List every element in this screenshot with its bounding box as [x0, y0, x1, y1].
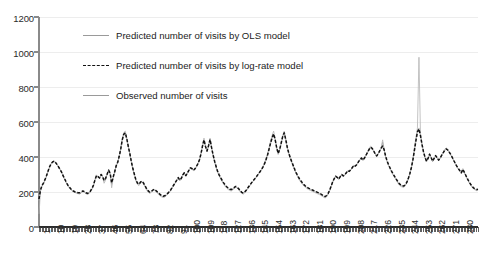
y-tick-label-600: 600 — [0, 118, 34, 129]
x-tick-label-226: 226 — [383, 220, 393, 234]
legend-label-observed: Observed number of visits — [116, 91, 227, 101]
x-tick-label-109: 109 — [206, 220, 216, 234]
x-tick-label-280: 280 — [465, 220, 475, 234]
y-tick-label-1000: 1000 — [0, 48, 34, 59]
y-axis-ticks — [34, 17, 39, 227]
x-tick-label-127: 127 — [233, 220, 243, 234]
x-tick-label-145: 145 — [260, 220, 270, 234]
legend-label-lograte: Predicted number of visits by log-rate m… — [116, 61, 303, 71]
legend-item-lograte: Predicted number of visits by log-rate m… — [83, 61, 303, 71]
x-tick-label-262: 262 — [437, 220, 447, 234]
x-tick-label-46: 46 — [110, 225, 120, 234]
legend-item-observed: Observed number of visits — [83, 91, 227, 101]
data-series-layer — [39, 57, 478, 214]
x-tick-label-82: 82 — [165, 225, 175, 234]
y-tick-label-400: 400 — [0, 153, 34, 164]
x-tick-label-91: 91 — [179, 225, 189, 234]
x-tick-label-154: 154 — [274, 220, 284, 234]
series-line-observed — [39, 57, 478, 214]
x-tick-label-28: 28 — [83, 225, 93, 234]
x-tick-label-10: 10 — [56, 225, 66, 234]
x-tick-label-235: 235 — [397, 220, 407, 234]
x-tick-label-19: 19 — [70, 225, 80, 234]
legend-line-dashed-lograte-icon — [83, 65, 109, 66]
x-tick-label-271: 271 — [451, 220, 461, 234]
legend-item-ols: Predicted number of visits by OLS model — [83, 31, 290, 41]
x-tick-label-217: 217 — [369, 220, 379, 234]
x-tick-label-1: 1 — [42, 229, 52, 234]
x-tick-label-172: 172 — [301, 220, 311, 234]
x-tick-label-136: 136 — [247, 220, 257, 234]
x-tick-label-55: 55 — [124, 225, 134, 234]
legend-line-solid-observed-icon — [83, 95, 109, 96]
x-tick-label-190: 190 — [328, 220, 338, 234]
chart-container: 1200 1000 800 600 400 200 0 — [0, 0, 484, 267]
legend-label-ols: Predicted number of visits by OLS model — [116, 31, 290, 41]
x-tick-label-199: 199 — [342, 220, 352, 234]
y-tick-label-200: 200 — [0, 188, 34, 199]
x-tick-label-208: 208 — [356, 220, 366, 234]
x-tick-label-181: 181 — [315, 220, 325, 234]
x-tick-label-37: 37 — [97, 225, 107, 234]
x-tick-label-253: 253 — [424, 220, 434, 234]
legend-line-solid-ols-icon — [83, 35, 109, 36]
x-tick-label-100: 100 — [192, 220, 202, 234]
y-tick-label-1200: 1200 — [0, 13, 34, 24]
x-tick-label-118: 118 — [219, 221, 229, 234]
x-tick-label-163: 163 — [288, 220, 298, 234]
x-tick-label-244: 244 — [410, 220, 420, 234]
y-tick-label-0: 0 — [0, 223, 34, 234]
x-tick-label-73: 73 — [151, 225, 161, 234]
x-tick-label-64: 64 — [138, 225, 148, 234]
series-line-lograte — [39, 129, 478, 199]
y-tick-label-800: 800 — [0, 83, 34, 94]
